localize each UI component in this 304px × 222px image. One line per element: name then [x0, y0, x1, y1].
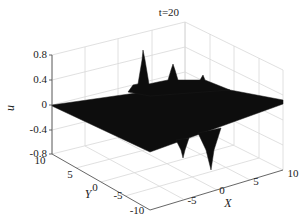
chart-title: t=20: [159, 6, 180, 18]
y-tick: -10: [130, 204, 145, 216]
surface-plot: 0.8 0.4 0 -0.4 -0.8 u 10 5 0 -5 -10 Y -5…: [0, 0, 304, 222]
x-tick: 10: [288, 167, 300, 179]
surface: [52, 50, 283, 170]
z-tick: 0: [42, 98, 48, 110]
z-tick: -0.4: [30, 123, 48, 135]
z-axis-label: u: [3, 105, 17, 111]
x-tick-labels: -5 0 5 10: [187, 167, 299, 206]
x-tick: 5: [253, 175, 259, 187]
x-axis-label: X: [223, 196, 232, 210]
y-tick-labels: 10 5 0 -5 -10: [35, 154, 145, 216]
y-tick: 10: [35, 154, 47, 166]
x-tick: -5: [187, 194, 197, 206]
z-tick-labels: 0.8 0.4 0 -0.4 -0.8: [30, 48, 48, 159]
z-tick: 0.8: [33, 48, 47, 60]
y-tick: 5: [67, 168, 73, 180]
y-tick: 0: [92, 181, 98, 193]
y-tick: -5: [113, 189, 123, 201]
x-tick: 0: [219, 184, 225, 196]
z-tick: 0.4: [33, 73, 47, 85]
